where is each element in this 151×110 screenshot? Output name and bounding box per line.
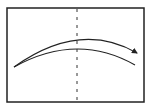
frame-rectangle	[7, 8, 144, 102]
diagram-canvas	[0, 0, 151, 110]
lower-arc	[14, 49, 135, 67]
upper-arc-with-arrow	[14, 39, 137, 67]
